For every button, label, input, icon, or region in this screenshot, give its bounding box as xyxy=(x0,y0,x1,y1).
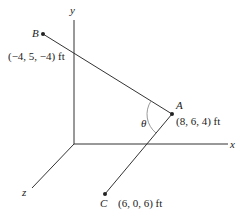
point-B xyxy=(41,32,45,36)
z-axis xyxy=(32,144,74,188)
point-C xyxy=(103,192,107,196)
point-C-coords: (6, 0, 6) ft xyxy=(118,197,162,210)
vector-AB xyxy=(43,34,172,114)
point-A-label: A xyxy=(175,99,183,111)
angle-theta-label: θ xyxy=(141,117,147,129)
point-A xyxy=(170,112,174,116)
diagram-canvas: y x z B (−4, 5, −4) ft A (8, 6, 4) ft C … xyxy=(0,0,241,220)
vector-AC xyxy=(105,114,172,194)
y-axis-label: y xyxy=(69,4,75,16)
x-axis-label: x xyxy=(229,138,235,150)
point-B-label: B xyxy=(32,27,39,39)
point-C-label: C xyxy=(100,197,108,209)
point-A-coords: (8, 6, 4) ft xyxy=(176,115,220,128)
point-B-coords: (−4, 5, −4) ft xyxy=(8,50,65,63)
angle-arc xyxy=(147,101,156,133)
z-axis-label: z xyxy=(21,186,27,198)
